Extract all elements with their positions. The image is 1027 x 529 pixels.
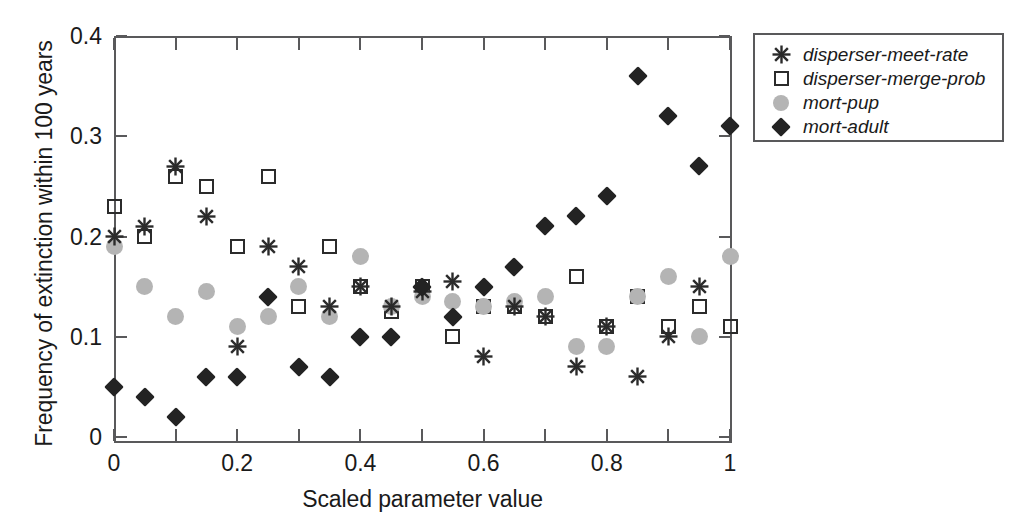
y-axis-tick-right: [719, 35, 730, 37]
data-point-diamond: [227, 367, 247, 387]
data-point-square: [445, 329, 460, 344]
data-point-star: [690, 277, 709, 296]
diamond-marker-icon: [769, 115, 795, 139]
data-point-diamond: [689, 156, 709, 176]
data-point-star: [597, 317, 616, 336]
data-point-square: [723, 319, 738, 334]
x-axis-tick: [175, 429, 177, 441]
data-point-square: [692, 299, 707, 314]
data-point-circle: [660, 268, 677, 285]
y-axis-tick: [116, 436, 127, 438]
data-point-circle: [290, 278, 307, 295]
x-axis-tick-label: 0: [79, 452, 149, 475]
data-point-diamond: [443, 307, 463, 327]
star-marker-icon: [769, 43, 795, 67]
axis-bottom-spine: [114, 441, 732, 443]
data-point-diamond: [135, 387, 155, 407]
legend-label: disperser-meet-rate: [803, 44, 968, 66]
legend-label: disperser-merge-prob: [803, 68, 985, 90]
data-point-star: [197, 207, 216, 226]
data-point-diamond: [381, 327, 401, 347]
y-axis-tick-label: 0.4: [32, 25, 102, 48]
data-point-star: [567, 357, 586, 376]
legend-label: mort-adult: [803, 116, 889, 138]
x-axis-tick-top: [729, 38, 731, 50]
x-axis-tick: [359, 429, 361, 441]
x-axis-title: Scaled parameter value: [114, 486, 731, 513]
data-point-star: [135, 217, 154, 236]
y-axis-tick-label: 0.1: [32, 326, 102, 349]
square-marker-icon: [769, 67, 795, 91]
circle-marker-icon: [769, 91, 795, 115]
y-axis-tick-right: [719, 135, 730, 137]
data-point-circle: [260, 308, 277, 325]
data-point-star: [320, 297, 339, 316]
data-point-star: [259, 237, 278, 256]
x-axis-tick: [483, 429, 485, 441]
data-point-square: [230, 239, 245, 254]
data-point-circle: [198, 283, 215, 300]
data-point-circle: [229, 318, 246, 335]
x-axis-tick: [667, 429, 669, 441]
data-point-diamond: [628, 66, 648, 86]
y-axis-tick-right: [719, 236, 730, 238]
x-axis-tick-top: [421, 38, 423, 50]
data-point-diamond: [196, 367, 216, 387]
data-point-circle: [537, 288, 554, 305]
data-point-square: [199, 179, 214, 194]
x-axis-tick: [236, 429, 238, 441]
data-point-star: [505, 297, 524, 316]
data-point-diamond: [566, 207, 586, 227]
x-axis-tick: [113, 429, 115, 441]
legend-item-mort-pup: mort-pup: [755, 91, 1002, 115]
legend-item-disperser-merge-prob: disperser-merge-prob: [755, 67, 1002, 91]
x-axis-tick-top: [236, 38, 238, 50]
data-point-diamond: [474, 277, 494, 297]
data-point-star: [166, 157, 185, 176]
x-axis-tick-top: [298, 38, 300, 50]
y-axis-tick-label: 0.3: [32, 125, 102, 148]
data-point-star: [659, 327, 678, 346]
x-axis-tick: [606, 429, 608, 441]
data-point-star: [382, 297, 401, 316]
x-axis-tick-top: [175, 38, 177, 50]
data-point-star: [351, 277, 370, 296]
data-point-diamond: [720, 116, 740, 136]
y-axis-tick: [116, 35, 127, 37]
data-point-circle: [167, 308, 184, 325]
y-axis-tick: [116, 135, 127, 137]
data-point-circle: [136, 278, 153, 295]
data-point-square: [261, 169, 276, 184]
x-axis-tick-top: [483, 38, 485, 50]
data-point-circle: [598, 338, 615, 355]
data-point-star: [443, 272, 462, 291]
data-point-diamond: [504, 257, 524, 277]
x-axis-tick-top: [359, 38, 361, 50]
data-point-star: [228, 337, 247, 356]
y-axis-tick-label: 0: [32, 426, 102, 449]
x-axis-tick-label: 0.4: [325, 452, 395, 475]
x-axis-tick-top: [606, 38, 608, 50]
data-point-square: [107, 199, 122, 214]
data-point-star: [105, 227, 124, 246]
data-point-star: [474, 347, 493, 366]
x-axis-tick: [298, 429, 300, 441]
x-axis-tick-top: [544, 38, 546, 50]
data-point-square: [322, 239, 337, 254]
legend-label: mort-pup: [803, 92, 879, 114]
x-axis-tick-label: 0.2: [202, 452, 272, 475]
x-axis-tick-label: 0.8: [572, 452, 642, 475]
scatter-plot-figure: Frequency of extinction within 100 years…: [0, 0, 1027, 529]
data-point-circle: [568, 338, 585, 355]
data-point-circle: [691, 328, 708, 345]
plot-area: [114, 36, 731, 442]
data-point-star: [628, 367, 647, 386]
data-point-square: [569, 269, 584, 284]
data-point-circle: [352, 248, 369, 265]
data-point-diamond: [597, 186, 617, 206]
x-axis-tick-top: [113, 38, 115, 50]
data-point-diamond: [535, 217, 555, 237]
data-point-square: [291, 299, 306, 314]
data-point-diamond: [289, 357, 309, 377]
legend-item-disperser-meet-rate: disperser-meet-rate: [755, 43, 1002, 67]
